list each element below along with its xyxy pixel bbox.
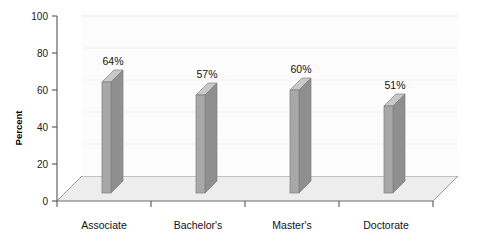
y-tick-label-100: 100 [31, 11, 48, 22]
bar-bachelors [196, 83, 217, 193]
x-axis [57, 201, 433, 207]
bar-side-doctorate [393, 94, 405, 193]
y-tick-label-40: 40 [37, 122, 49, 133]
bar-associate [102, 70, 123, 193]
bar-chart: 100 80 60 40 20 0 Percent [0, 0, 488, 243]
bar-side-masters [299, 78, 311, 193]
bar-front-associate [102, 82, 111, 193]
bar-front-bachelors [196, 95, 205, 193]
x-category-label-masters: Master's [272, 219, 311, 231]
y-tick-label-20: 20 [37, 159, 49, 170]
value-label-masters: 60% [290, 63, 311, 75]
value-label-bachelors: 57% [196, 68, 217, 80]
chart-canvas: 100 80 60 40 20 0 Percent [0, 0, 488, 243]
x-category-label-associate: Associate [81, 219, 127, 231]
value-label-doctorate: 51% [384, 79, 405, 91]
y-axis: 100 80 60 40 20 0 [31, 11, 57, 207]
bar-front-masters [290, 90, 299, 193]
bar-front-doctorate [384, 106, 393, 193]
value-label-associate: 64% [102, 55, 123, 67]
bar-side-bachelors [205, 83, 217, 193]
y-tick-label-0: 0 [42, 196, 48, 207]
y-tick-label-60: 60 [37, 85, 49, 96]
x-category-label-bachelors: Bachelor's [174, 219, 223, 231]
bar-masters [290, 78, 311, 193]
bar-doctorate [384, 94, 405, 193]
y-axis-title: Percent [13, 110, 24, 146]
x-category-label-doctorate: Doctorate [363, 219, 409, 231]
bar-side-associate [111, 70, 123, 193]
y-tick-label-80: 80 [37, 48, 49, 59]
